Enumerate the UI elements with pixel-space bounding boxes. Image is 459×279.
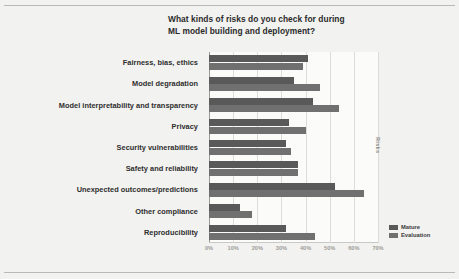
category-label: Security vulnerabilities: [117, 143, 198, 152]
chart-title-line-1: What kinds of risks do you check for dur…: [168, 14, 408, 26]
bar-evaluation: [209, 169, 298, 176]
category-label: Other compliance: [135, 207, 198, 216]
legend-item-evaluation[interactable]: Evaluation: [389, 232, 455, 238]
legend-label-evaluation: Evaluation: [401, 232, 430, 238]
x-axis-line: [209, 242, 378, 243]
x-tick-label: 50%: [324, 245, 335, 251]
bar-evaluation: [209, 63, 303, 70]
bar-mature: [209, 161, 298, 168]
legend-label-mature: Mature: [401, 224, 420, 230]
gridline: [306, 52, 307, 243]
bar-mature: [209, 204, 240, 211]
bar-evaluation: [209, 211, 252, 218]
bar-evaluation: [209, 148, 291, 155]
page-rule-top: [4, 5, 455, 6]
x-axis-tick-labels: 0%10%20%30%40%50%60%70%: [209, 245, 378, 257]
bar-evaluation: [209, 233, 315, 240]
bar-evaluation: [209, 105, 339, 112]
category-label: Model degradation: [132, 79, 198, 88]
legend-item-mature[interactable]: Mature: [389, 224, 455, 230]
x-tick-label: 0%: [205, 245, 213, 251]
category-label: Safety and reliability: [126, 164, 198, 173]
bar-mature: [209, 119, 289, 126]
bar-mature: [209, 55, 308, 62]
x-tick-label: 10%: [228, 245, 239, 251]
bar-mature: [209, 225, 286, 232]
category-label: Reproducibility: [144, 228, 198, 237]
category-label: Model interpretability and transparency: [59, 101, 198, 110]
category-label: Privacy: [172, 122, 198, 131]
page-rule-bottom: [4, 272, 455, 273]
legend-swatch-mature-icon: [389, 225, 398, 230]
category-axis-labels: Fairness, bias, ethicsModel degradationM…: [0, 52, 204, 243]
bar-evaluation: [209, 127, 306, 134]
plot-area: [209, 52, 378, 243]
bar-evaluation: [209, 190, 364, 197]
bar-evaluation: [209, 84, 320, 91]
gridline: [330, 52, 331, 243]
legend-swatch-evaluation-icon: [389, 233, 398, 238]
x-tick-label: 30%: [276, 245, 287, 251]
chart-figure: What kinds of risks do you check for dur…: [0, 0, 459, 279]
x-tick-label: 40%: [300, 245, 311, 251]
y-axis-title: Risks: [375, 137, 381, 153]
x-tick-label: 60%: [348, 245, 359, 251]
category-label: Unexpected outcomes/predictions: [77, 185, 198, 194]
bar-mature: [209, 98, 313, 105]
x-tick-label: 70%: [372, 245, 383, 251]
x-tick-label: 20%: [252, 245, 263, 251]
gridline: [354, 52, 355, 243]
chart-title-line-2: ML model building and deployment?: [168, 26, 408, 38]
bar-mature: [209, 183, 335, 190]
chart-title: What kinds of risks do you check for dur…: [168, 14, 408, 37]
bar-mature: [209, 140, 286, 147]
category-label: Fairness, bias, ethics: [123, 58, 198, 67]
chart-legend: Mature Evaluation: [389, 224, 455, 240]
bar-mature: [209, 77, 294, 84]
